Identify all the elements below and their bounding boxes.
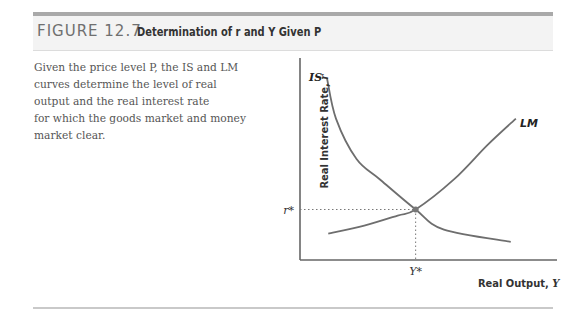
x-axis-label: Real Output, Y	[478, 277, 559, 290]
r-star-label: r*	[283, 204, 294, 217]
x-axis-label-variable: Y	[552, 277, 559, 290]
y-axis-label-variable: r	[318, 75, 331, 80]
y-star-label: Y*	[409, 265, 422, 278]
y-axis-label-text: Real Interest Rate,	[318, 80, 331, 189]
is-curve	[327, 78, 511, 242]
lm-curve	[328, 119, 516, 234]
equilibrium-point	[413, 207, 419, 213]
is-lm-chart: r* Y* ISLM	[0, 0, 586, 311]
x-axis-label-text: Real Output,	[478, 277, 552, 290]
lm-curve-label: LM	[520, 117, 538, 130]
y-axis-label: Real Interest Rate, r	[318, 81, 331, 189]
figure-bottom-rule	[33, 307, 553, 309]
